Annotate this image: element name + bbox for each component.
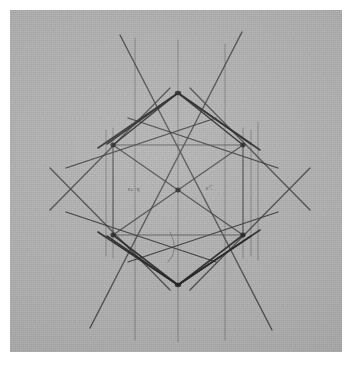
lower-rays-segment: [98, 232, 178, 285]
node-upper-left-node: [110, 143, 115, 148]
lower-rays-segment: [113, 235, 178, 285]
long-diagonals-segment: [50, 88, 170, 210]
node-center: [175, 188, 180, 193]
node-bottom-apex: [175, 283, 181, 287]
node-upper-right-node: [240, 143, 245, 148]
paper-sheet: εₖ·η ε·̅ᵣ: [10, 10, 342, 352]
lower-apex-rays: [98, 230, 260, 285]
outer-tangents-segment: [66, 118, 216, 168]
long-diagonals-segment: [120, 35, 272, 330]
node-lower-left-node: [110, 233, 115, 238]
node-lower-right-node: [240, 233, 245, 238]
upper-apex-rays: [98, 93, 260, 150]
outer-tangents-segment: [128, 212, 278, 262]
node-top-apex: [175, 91, 181, 95]
construction-drawing: [10, 10, 342, 352]
long-diagonals-segment: [190, 88, 310, 210]
upper-rays-segment: [113, 93, 178, 145]
outer-tangents-segment: [128, 118, 278, 168]
upper-rays-segment: [98, 93, 178, 148]
long-diagonals-segment: [190, 168, 310, 290]
long-diagonals-segment: [50, 168, 170, 290]
scanned-drawing-page: εₖ·η ε·̅ᵣ: [0, 0, 352, 366]
lower-rays-segment: [178, 230, 260, 285]
upper-rays-segment: [178, 93, 260, 150]
outer-tangents-segment: [66, 212, 216, 262]
